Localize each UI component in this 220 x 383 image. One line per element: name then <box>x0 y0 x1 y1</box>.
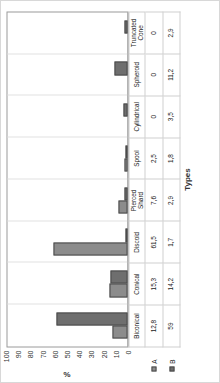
legend-series-label: A <box>150 359 157 363</box>
bar-a-spool <box>124 158 127 171</box>
legend-series-label: B <box>168 359 175 363</box>
table-row: B5914,21,72,91,83,511,22,9 <box>163 11 180 383</box>
data-value-cell: 3,5 <box>163 96 180 138</box>
data-value-cell: 2,9 <box>163 180 180 222</box>
bar-a-biconical <box>112 325 127 338</box>
y-axis-tick-label: 20 <box>100 350 107 358</box>
data-value-cell: 0 <box>145 54 162 96</box>
data-value-cell: 11,2 <box>163 54 180 96</box>
category-label: Conical <box>128 263 145 305</box>
data-value-cell: 15,3 <box>145 263 162 305</box>
data-value-cell: 12,8 <box>145 305 162 347</box>
chart-data-table: BiconicalConicalDiscoidPierced ShardSpoo… <box>128 11 180 383</box>
plot-inner <box>7 12 127 346</box>
figure-frame: % 1009080706050403020100 BiconicalConica… <box>0 0 220 383</box>
category-separator <box>7 178 127 179</box>
category-separator <box>7 95 127 96</box>
data-value-cell: 0 <box>145 96 162 138</box>
y-axis-title-label: % <box>62 370 69 379</box>
category-label: Cylindrical <box>128 96 145 138</box>
y-axis-tick-label: 70 <box>39 350 46 358</box>
data-value-cell: 59 <box>163 305 180 347</box>
category-separator <box>7 220 127 221</box>
plot-area <box>6 11 128 347</box>
y-axis-tick-label: 100 <box>3 350 10 362</box>
y-axis-ticks: 1009080706050403020100 <box>6 348 128 369</box>
data-value-cell: 7,6 <box>145 180 162 222</box>
category-label: Spheroid <box>128 54 145 96</box>
y-axis-tick-label: 30 <box>88 350 95 358</box>
category-separator <box>7 262 127 263</box>
data-value-cell: 14,2 <box>163 263 180 305</box>
category-label: Spool <box>128 138 145 180</box>
data-value-cell: 61,5 <box>145 221 162 263</box>
bar-b-discoid <box>125 228 127 241</box>
data-value-cell: 0 <box>145 11 162 54</box>
category-label: Discoid <box>128 221 145 263</box>
y-axis-tick-label: 90 <box>15 350 22 358</box>
rotated-chart-stage: % 1009080706050403020100 BiconicalConica… <box>0 0 220 383</box>
y-axis-tick-label: 10 <box>112 350 119 358</box>
category-separator <box>7 53 127 54</box>
category-label: Biconical <box>128 305 145 347</box>
legend-item-b: B <box>163 347 180 383</box>
y-axis-tick-label: 60 <box>51 350 58 358</box>
bar-chart-figure: % 1009080706050403020100 BiconicalConica… <box>0 0 220 383</box>
data-value-cell: 1,7 <box>163 221 180 263</box>
bar-b-truncated-cone <box>124 20 127 33</box>
category-label: Truncated Cone <box>128 11 145 54</box>
y-axis-tick-label: 50 <box>64 350 71 358</box>
table-header-row: BiconicalConicalDiscoidPierced ShardSpoo… <box>128 11 145 383</box>
bar-b-spool <box>125 145 127 158</box>
x-axis-title: Types <box>182 11 191 347</box>
y-axis-tick-label: 80 <box>27 350 34 358</box>
data-value-cell: 2,5 <box>145 138 162 180</box>
bar-a-conical <box>109 283 127 296</box>
legend-swatch-icon <box>169 366 174 371</box>
category-separator <box>7 303 127 304</box>
table-row: A12,815,361,57,62,5000 <box>145 11 162 383</box>
category-label: Pierced Shard <box>128 180 145 222</box>
bar-b-spheroid <box>114 61 127 74</box>
bar-a-discoid <box>53 242 127 255</box>
bar-b-conical <box>110 270 127 283</box>
bar-b-cylindrical <box>123 103 127 116</box>
bar-a-pierced-shard <box>118 200 127 213</box>
bar-b-pierced-shard <box>124 187 127 200</box>
table-corner-cell <box>128 347 145 383</box>
category-separator <box>7 136 127 137</box>
bar-b-biconical <box>56 312 127 325</box>
legend-swatch-icon <box>151 366 156 371</box>
y-axis-tick-label: 40 <box>76 350 83 358</box>
legend-item-a: A <box>145 347 162 383</box>
data-value-cell: 1,8 <box>163 138 180 180</box>
data-value-cell: 2,9 <box>163 11 180 54</box>
